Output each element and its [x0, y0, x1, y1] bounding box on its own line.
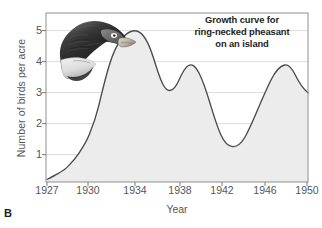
x-tick-label-1942: 1942	[202, 185, 242, 196]
x-tick-label-1938: 1938	[160, 185, 200, 196]
x-tick-label-1934: 1934	[115, 185, 155, 196]
x-tick-label-1950: 1950	[287, 185, 322, 196]
x-axis-title: Year	[46, 203, 308, 215]
figure-panel-b: Growth curve for ring-necked pheasant on…	[0, 0, 322, 228]
panel-label: B	[4, 207, 12, 219]
x-tick-label-1946: 1946	[245, 185, 285, 196]
x-tick-label-1927: 1927	[27, 185, 67, 196]
x-axis-tick-labels: 1927 1930 1934 1938 1942 1946 1950	[0, 0, 322, 228]
x-tick-label-1930: 1930	[68, 185, 108, 196]
